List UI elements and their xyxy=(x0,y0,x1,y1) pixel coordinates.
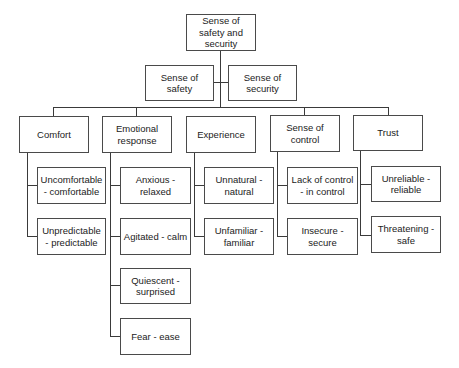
emotional-tick-4 xyxy=(110,336,120,337)
item-insecure-secure: Insecure - secure xyxy=(287,218,358,255)
item-unnatural-natural: Unnatural - natural xyxy=(204,167,274,204)
node-label: Sense of security xyxy=(231,72,294,95)
item-label: Anxious - relaxed xyxy=(123,174,188,197)
comfort-branch xyxy=(27,152,28,237)
category-bus xyxy=(53,107,389,108)
category-label: Trust xyxy=(377,127,398,139)
emotional-tick-2 xyxy=(110,236,120,237)
node-sense-of-security: Sense of security xyxy=(228,65,297,101)
item-threatening-safe: Threatening - safe xyxy=(371,216,441,253)
item-label: Insecure - secure xyxy=(290,225,355,248)
item-label: Unfamiliar - familiar xyxy=(207,225,271,248)
control-tick-1 xyxy=(277,185,287,186)
item-label: Threatening - safe xyxy=(374,223,438,246)
item-quiescent-surprised: Quiescent - surprised xyxy=(120,268,191,304)
node-label: Sense of safety xyxy=(148,72,211,95)
category-label: Comfort xyxy=(37,129,71,141)
item-agitated-calm: Agitated - calm xyxy=(120,218,191,255)
item-label: Unreliable - reliable xyxy=(374,173,438,196)
category-emotional-response: Emotional response xyxy=(102,116,172,153)
category-label: Experience xyxy=(197,129,245,141)
item-label: Fear - ease xyxy=(131,331,180,343)
root-label: Sense of safety and security xyxy=(189,15,253,50)
item-label: Agitated - calm xyxy=(124,231,187,243)
control-branch xyxy=(277,151,278,237)
item-label: Lack of control - in control xyxy=(290,174,355,197)
emotional-drop xyxy=(136,107,137,116)
item-uncomfortable-comfortable: Uncomfortable - comfortable xyxy=(37,167,106,204)
item-unpredictable-predictable: Unpredictable - predictable xyxy=(37,218,106,255)
emotional-tick-1 xyxy=(110,185,120,186)
category-sense-of-control: Sense of control xyxy=(270,115,340,152)
category-label: Sense of control xyxy=(273,122,337,145)
control-tick-2 xyxy=(277,236,287,237)
comfort-drop xyxy=(53,107,54,116)
experience-branch xyxy=(194,152,195,237)
item-unreliable-reliable: Unreliable - reliable xyxy=(371,166,441,202)
category-experience: Experience xyxy=(186,116,256,153)
item-unfamiliar-familiar: Unfamiliar - familiar xyxy=(204,218,274,255)
trust-tick-1 xyxy=(360,184,371,185)
node-sense-of-safety: Sense of safety xyxy=(145,65,214,101)
comfort-tick-1 xyxy=(27,185,37,186)
level2-connector xyxy=(213,82,228,83)
category-label: Emotional response xyxy=(105,123,169,146)
root-node: Sense of safety and security xyxy=(186,14,256,51)
experience-tick-2 xyxy=(194,236,204,237)
trust-tick-2 xyxy=(360,235,371,236)
item-label: Unpredictable - predictable xyxy=(40,225,103,248)
item-anxious-relaxed: Anxious - relaxed xyxy=(120,167,191,204)
item-lack-of-control-in-control: Lack of control - in control xyxy=(287,167,358,204)
emotional-tick-3 xyxy=(110,285,120,286)
item-fear-ease: Fear - ease xyxy=(120,318,191,355)
emotional-branch xyxy=(110,152,111,337)
item-label: Quiescent - surprised xyxy=(123,275,188,298)
comfort-tick-2 xyxy=(27,236,37,237)
root-connector xyxy=(220,50,221,108)
category-comfort: Comfort xyxy=(19,116,89,153)
item-label: Uncomfortable - comfortable xyxy=(40,174,103,197)
item-label: Unnatural - natural xyxy=(207,174,271,197)
experience-tick-1 xyxy=(194,185,204,186)
category-trust: Trust xyxy=(353,115,423,151)
trust-branch xyxy=(360,150,361,236)
